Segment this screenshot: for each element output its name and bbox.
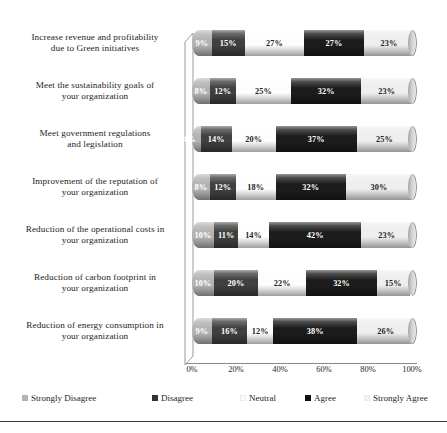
cylinder-end-cap — [408, 174, 417, 200]
category-label-line: Meet the sustainability goals of — [4, 80, 186, 91]
bar-segment: 27% — [245, 30, 304, 56]
bar-value-label: 15% — [212, 30, 245, 56]
bar-segment: 26% — [357, 318, 414, 344]
category-label-line: and legislation — [4, 139, 186, 150]
bar-row: 4%14%20%37%25% — [192, 126, 412, 152]
bar-value-label: 32% — [291, 78, 361, 104]
category-label: Improvement of the reputation ofyour org… — [4, 176, 186, 198]
bar-value-label: 8% — [192, 78, 210, 104]
bar-segment: 4% — [192, 126, 201, 152]
category-label-line: due to Green initiatives — [4, 43, 186, 54]
category-label-line: your organization — [4, 283, 186, 294]
bar-segment: 23% — [364, 30, 415, 56]
bar-segment: 11% — [214, 222, 238, 248]
bar-segment: 16% — [212, 318, 247, 344]
bar-segment: 12% — [247, 318, 273, 344]
bar-segment: 9% — [192, 30, 212, 56]
bar-row: 10%20%22%32%15% — [192, 270, 412, 296]
legend-swatch — [152, 395, 158, 401]
category-label-line: your organization — [4, 235, 186, 246]
bar-segment: 30% — [346, 174, 412, 200]
legend-label: Disagree — [161, 393, 193, 403]
category-label: Reduction of the operational costs inyou… — [4, 224, 186, 246]
bar-row: 8%12%18%32%30% — [192, 174, 412, 200]
stacked-bar-chart: Increase revenue and profitabilitydue to… — [0, 0, 447, 433]
bar-segment: 25% — [357, 126, 412, 152]
x-axis-tick-label: 60% — [307, 365, 341, 374]
bar-value-label: 25% — [236, 78, 291, 104]
cylinder-end-cap — [408, 270, 417, 296]
bar-value-label: 27% — [245, 30, 304, 56]
bar-value-label: 4% — [183, 126, 201, 152]
category-label: Increase revenue and profitabilitydue to… — [4, 32, 186, 54]
legend-swatch — [305, 395, 311, 401]
cylinder-bar: 8%12%18%32%30% — [192, 174, 412, 200]
x-axis-tick-label: 0% — [175, 365, 209, 374]
bar-value-label: 9% — [192, 318, 212, 344]
bar-value-label: 10% — [192, 222, 214, 248]
category-label-line: Reduction of the operational costs in — [4, 224, 186, 235]
bar-value-label: 30% — [346, 174, 412, 200]
category-label: Reduction of carbon footprint inyour org… — [4, 272, 186, 294]
bar-row: 9%15%27%27%23% — [192, 30, 412, 56]
bar-segment: 32% — [306, 270, 376, 296]
bar-value-label: 15% — [377, 270, 410, 296]
cylinder-end-cap — [408, 78, 417, 104]
bar-value-label: 11% — [214, 222, 238, 248]
legend-item[interactable]: Strongly Agree — [364, 391, 428, 405]
bar-segment: 32% — [291, 78, 361, 104]
cylinder-bar: 4%14%20%37%25% — [192, 126, 412, 152]
bar-segment: 23% — [361, 222, 412, 248]
bar-segment: 25% — [236, 78, 291, 104]
bar-value-label: 10% — [192, 270, 214, 296]
cylinder-bar: 9%16%12%38%26% — [192, 318, 412, 344]
x-axis-tick-label: 80% — [351, 365, 385, 374]
cylinder-bar: 8%12%25%32%23% — [192, 78, 412, 104]
cylinder-end-cap — [408, 30, 417, 56]
cylinder-bar: 10%20%22%32%15% — [192, 270, 412, 296]
category-label-line: Reduction of carbon footprint in — [4, 272, 186, 283]
bar-segment: 15% — [377, 270, 410, 296]
category-label-line: your organization — [4, 187, 186, 198]
legend-swatch — [364, 395, 370, 401]
category-label-line: your organization — [4, 91, 186, 102]
bottom-divider-rule — [0, 421, 447, 422]
bar-segment: 8% — [192, 174, 210, 200]
category-label: Meet the sustainability goals ofyour org… — [4, 80, 186, 102]
bar-segment: 27% — [304, 30, 363, 56]
bar-segment: 20% — [232, 126, 276, 152]
cylinder-bar: 10%11%14%42%23% — [192, 222, 412, 248]
legend-item[interactable]: Agree — [305, 391, 336, 405]
category-label: Reduction of energy consumption inyour o… — [4, 320, 186, 342]
bar-segment: 10% — [192, 270, 214, 296]
bar-value-label: 38% — [273, 318, 357, 344]
legend-swatch — [22, 395, 28, 401]
chart-legend: Strongly DisagreeDisagreeNeutralAgreeStr… — [0, 391, 447, 407]
x-axis-tick-labels: 0%20%40%60%80%100% — [150, 365, 447, 379]
x-axis-tick-label: 40% — [263, 365, 297, 374]
bar-value-label: 23% — [361, 78, 412, 104]
bar-value-label: 14% — [201, 126, 232, 152]
bar-segment: 18% — [236, 174, 276, 200]
bar-segment: 8% — [192, 78, 210, 104]
cylinder-end-cap — [408, 222, 417, 248]
bar-value-label: 12% — [247, 318, 273, 344]
x-axis-line — [186, 363, 417, 364]
legend-item[interactable]: Disagree — [152, 391, 193, 405]
bar-segment: 10% — [192, 222, 214, 248]
bar-value-label: 42% — [269, 222, 361, 248]
category-axis-labels: Increase revenue and profitabilitydue to… — [4, 22, 186, 362]
cylinder-bar: 9%15%27%27%23% — [192, 30, 412, 56]
bar-segment: 38% — [273, 318, 357, 344]
legend-item[interactable]: Strongly Disagree — [22, 391, 96, 405]
bar-value-label: 22% — [258, 270, 306, 296]
bar-row: 10%11%14%42%23% — [192, 222, 412, 248]
plot-area: 9%15%27%27%23%8%12%25%32%23%4%14%20%37%2… — [192, 26, 412, 362]
bar-segment: 9% — [192, 318, 212, 344]
bar-segment: 20% — [214, 270, 258, 296]
bar-value-label: 16% — [212, 318, 247, 344]
bar-row: 8%12%25%32%23% — [192, 78, 412, 104]
bar-value-label: 32% — [306, 270, 376, 296]
bar-value-label: 9% — [192, 30, 212, 56]
legend-item[interactable]: Neutral — [240, 391, 276, 405]
